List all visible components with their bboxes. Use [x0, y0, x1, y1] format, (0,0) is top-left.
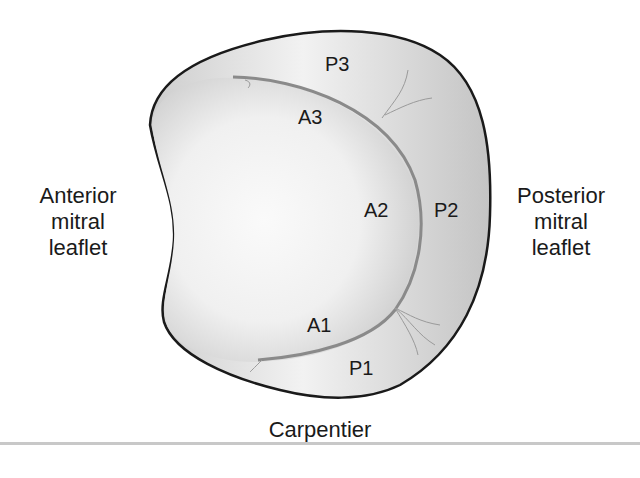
posterior-label-line-3: leaflet: [498, 235, 624, 261]
posterior-label-line-1: Posterior: [498, 183, 624, 209]
anterior-label-line-3: leaflet: [18, 235, 138, 261]
segment-a3: A3: [298, 106, 322, 128]
anterior-leaflet-label: Anterior mitral leaflet: [18, 183, 138, 261]
bottom-divider: [0, 442, 640, 445]
segment-p3: P3: [325, 53, 349, 75]
segment-a2: A2: [364, 199, 388, 221]
segment-p2: P2: [434, 199, 458, 221]
posterior-label-line-2: mitral: [498, 209, 624, 235]
anterior-label-line-2: mitral: [18, 209, 138, 235]
segment-p1: P1: [349, 357, 373, 379]
posterior-leaflet-label: Posterior mitral leaflet: [498, 183, 624, 261]
segment-a1: A1: [307, 314, 331, 336]
anterior-label-line-1: Anterior: [18, 183, 138, 209]
caption: Carpentier: [220, 417, 420, 443]
